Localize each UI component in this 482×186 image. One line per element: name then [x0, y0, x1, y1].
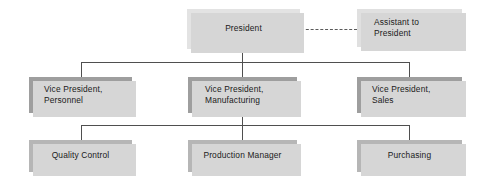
node-production-manager-label: Production Manager	[198, 150, 286, 161]
node-vp-manufacturing-label: Vice President, Manufacturing	[188, 84, 268, 106]
connector-assistant-dashed	[301, 29, 357, 30]
node-assistant-to-president[interactable]: Assistant to President	[357, 9, 462, 47]
node-quality-control[interactable]: Quality Control	[29, 140, 132, 172]
connector-vp-personnel-drop	[81, 62, 82, 78]
node-vp-personnel-label: Vice President, Personnel	[29, 84, 107, 106]
connector-vp-bus	[81, 62, 410, 63]
connector-president-stem	[242, 49, 243, 77]
node-assistant-to-president-label: Assistant to President	[357, 17, 424, 39]
node-quality-control-label: Quality Control	[47, 150, 115, 161]
node-production-manager[interactable]: Production Manager	[188, 140, 297, 172]
node-purchasing-label: Purchasing	[383, 150, 436, 161]
node-president[interactable]: President	[187, 9, 300, 49]
node-president-label: President	[220, 23, 267, 34]
node-vp-manufacturing[interactable]: Vice President, Manufacturing	[188, 77, 297, 113]
node-vp-sales[interactable]: Vice President, Sales	[357, 77, 462, 113]
connector-bottom-bus	[81, 125, 410, 126]
node-vp-personnel[interactable]: Vice President, Personnel	[29, 77, 132, 113]
node-purchasing[interactable]: Purchasing	[357, 140, 462, 172]
org-chart: President Assistant to President Vice Pr…	[0, 0, 482, 186]
connector-purchasing-drop	[409, 125, 410, 140]
node-vp-sales-label: Vice President, Sales	[357, 84, 435, 106]
connector-quality-control-drop	[81, 125, 82, 140]
connector-vp-sales-drop	[409, 62, 410, 78]
